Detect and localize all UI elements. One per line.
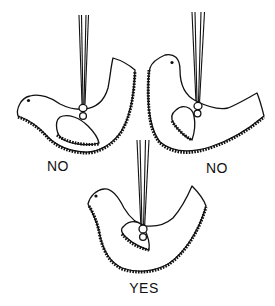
ornament-illustration — [0, 0, 275, 306]
ornament-top-left — [18, 15, 136, 153]
hanging-ring-icon — [80, 113, 87, 120]
bird-eye-icon — [27, 99, 30, 102]
ornament-bottom-center — [88, 140, 206, 272]
bird-eye-icon — [94, 194, 97, 197]
hanging-ring-icon — [140, 234, 147, 241]
verdict-label-top-right: NO — [206, 161, 228, 175]
verdict-label-bottom: YES — [129, 281, 159, 295]
bird-body-icon — [148, 55, 264, 151]
hanging-loop-icon — [139, 225, 147, 233]
bird-eye-icon — [170, 61, 173, 64]
string-icon — [79, 15, 89, 104]
hanging-loop-icon — [79, 104, 87, 111]
illustration-canvas: NO NO YES — [0, 0, 275, 306]
ornament-top-right — [148, 12, 264, 152]
hanging-ring-icon — [194, 110, 201, 117]
hanging-loop-icon — [194, 102, 202, 109]
string-icon — [192, 12, 205, 103]
verdict-label-top-left: NO — [47, 159, 69, 173]
string-icon — [137, 140, 149, 229]
